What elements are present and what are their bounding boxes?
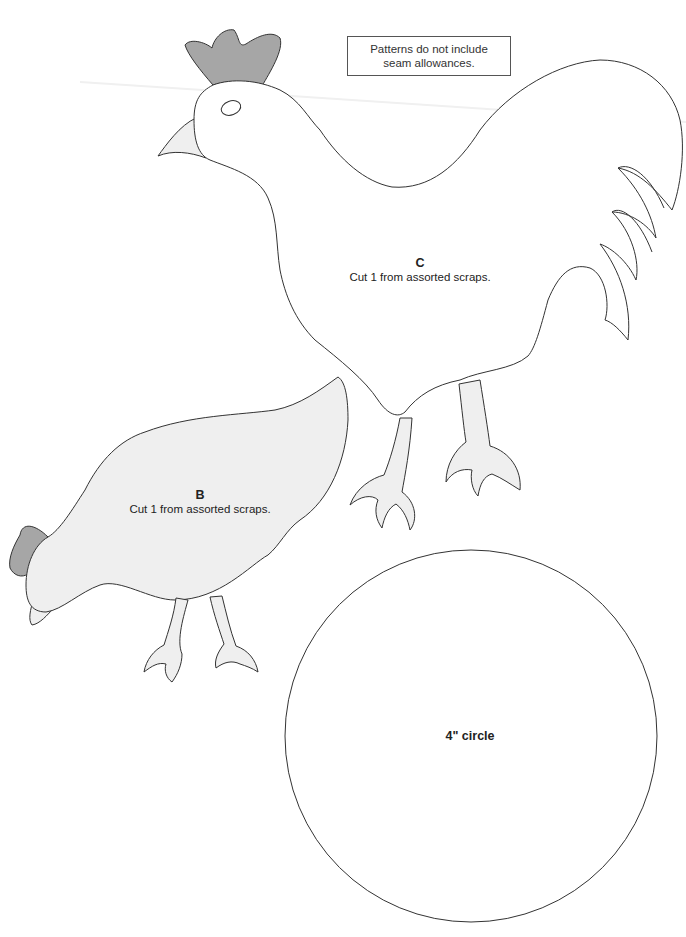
rooster-body bbox=[194, 60, 682, 415]
pattern-artwork bbox=[0, 0, 686, 937]
seam-allowance-note: Patterns do not include seam allowances. bbox=[347, 36, 511, 76]
rooster-comb bbox=[185, 30, 281, 86]
hen-leg-left bbox=[144, 598, 188, 682]
piece-b-letter: B bbox=[110, 488, 290, 502]
piece-c-instruction: Cut 1 from assorted scraps. bbox=[330, 270, 510, 284]
hen-piece-b bbox=[10, 377, 348, 682]
piece-b-instruction: Cut 1 from assorted scraps. bbox=[110, 502, 290, 516]
rooster-leg-right bbox=[446, 380, 520, 496]
piece-b-label: B Cut 1 from assorted scraps. bbox=[110, 488, 290, 516]
circle-label: 4" circle bbox=[410, 729, 530, 743]
note-line-1: Patterns do not include bbox=[370, 42, 488, 56]
note-line-2: seam allowances. bbox=[383, 56, 474, 70]
rooster-leg-left bbox=[350, 418, 415, 530]
hen-leg-right bbox=[210, 596, 258, 672]
piece-c-letter: C bbox=[330, 256, 510, 270]
piece-c-label: C Cut 1 from assorted scraps. bbox=[330, 256, 510, 284]
